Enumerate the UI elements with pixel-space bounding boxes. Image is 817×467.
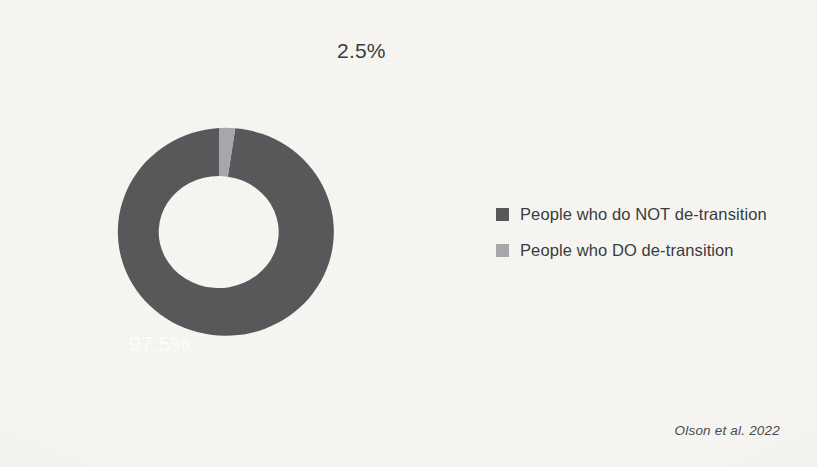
legend-swatch-icon: [496, 208, 509, 221]
legend-swatch-icon: [496, 244, 509, 257]
legend-item-people-who-do-de-transition[interactable]: People who DO de-transition: [496, 232, 767, 268]
donut-chart: 2.5% 97.5%: [0, 0, 470, 467]
slice-value-label-minor: 2.5%: [337, 39, 386, 63]
legend-item-people-who-do-not-de-transition[interactable]: People who do NOT de-transition: [496, 196, 767, 232]
slice-value-label-major: 97.5%: [129, 332, 190, 356]
donut-chart-svg: [0, 0, 470, 467]
legend-item-label: People who DO de-transition: [520, 241, 734, 260]
source-citation: Olson et al. 2022: [675, 423, 780, 438]
chart-legend: People who do NOT de-transition People w…: [496, 196, 767, 268]
legend-item-label: People who do NOT de-transition: [520, 205, 767, 224]
